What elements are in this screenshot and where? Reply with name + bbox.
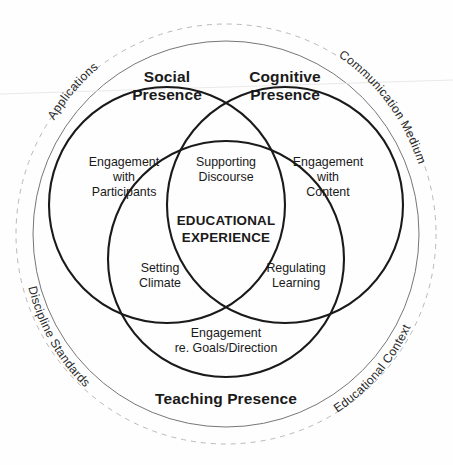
cognitive-circle-body: Engagement with Content: [293, 155, 364, 199]
social-presence-line2: Presence: [132, 86, 202, 103]
presence-heading-teaching: Teaching Presence: [155, 390, 297, 407]
cognitive-presence-line1: Cognitive: [249, 68, 321, 85]
arc-label-educational-context: Educational Context: [331, 322, 414, 416]
supporting-discourse-line2: Discourse: [198, 170, 253, 184]
educational-experience-line1: EDUCATIONAL: [177, 213, 276, 228]
cognitive-body-line2: with: [316, 170, 339, 184]
teaching-circle-body: Engagement re. Goals/Direction: [175, 326, 278, 355]
cognitive-body-line1: Engagement: [293, 155, 364, 169]
coi-diagram-canvas: Social Presence Cognitive Presence Teach…: [0, 0, 453, 465]
cognitive-presence-line2: Presence: [250, 86, 320, 103]
arc-label-discipline-standards-text: Discipline Standards: [25, 284, 93, 390]
intersection-cognitive-teaching: Regulating Learning: [266, 261, 325, 290]
social-presence-line1: Social: [144, 68, 190, 85]
cognitive-body-line3: Content: [306, 185, 350, 199]
supporting-discourse-line1: Supporting: [196, 155, 256, 169]
arc-label-educational-context-text: Educational Context: [331, 322, 414, 416]
social-circle-body: Engagement with Participants: [89, 155, 160, 199]
coi-framework-diagram: Social Presence Cognitive Presence Teach…: [0, 0, 453, 465]
teaching-body-line2: re. Goals/Direction: [175, 341, 278, 355]
social-body-line1: Engagement: [89, 155, 160, 169]
presence-heading-social: Social Presence: [132, 68, 202, 103]
educational-experience-label: EDUCATIONAL EXPERIENCE: [177, 213, 276, 245]
presence-heading-cognitive: Cognitive Presence: [249, 68, 321, 103]
teaching-body-line1: Engagement: [191, 326, 262, 340]
regulating-learning-line1: Regulating: [266, 261, 325, 275]
intersection-social-teaching: Setting Climate: [139, 261, 181, 290]
setting-climate-line1: Setting: [141, 261, 180, 275]
regulating-learning-line2: Learning: [272, 276, 320, 290]
arc-label-discipline-standards: Discipline Standards: [25, 284, 93, 390]
intersection-social-cognitive: Supporting Discourse: [196, 155, 256, 184]
educational-experience-line2: EXPERIENCE: [182, 230, 270, 245]
teaching-presence-line1: Teaching Presence: [155, 390, 297, 407]
social-body-line3: Participants: [92, 185, 157, 199]
setting-climate-line2: Climate: [139, 276, 181, 290]
social-body-line2: with: [112, 170, 135, 184]
